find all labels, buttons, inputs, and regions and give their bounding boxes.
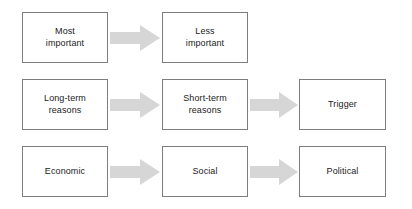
flow-diagram: Most important Less important Long-term … [0,0,412,209]
node-trigger[interactable]: Trigger [299,79,386,130]
arrow-right-icon [250,92,298,118]
node-most-important[interactable]: Most important [22,12,108,63]
node-label: Long-term reasons [41,93,89,116]
node-label: Social [189,166,220,178]
diagram-row-2: Long-term reasons Short-term reasons Tri… [0,79,412,131]
node-label: Less important [183,26,227,49]
arrow-right-icon [250,159,298,185]
node-label: Political [324,166,362,178]
arrow-right-icon [110,25,160,51]
node-long-term-reasons[interactable]: Long-term reasons [22,79,108,130]
node-label: Economic [42,166,88,178]
arrow-right-icon [110,159,160,185]
diagram-row-3: Economic Social Political [0,146,412,198]
node-less-important[interactable]: Less important [162,12,248,63]
node-label: Short-term reasons [180,93,230,116]
node-short-term-reasons[interactable]: Short-term reasons [162,79,248,130]
arrow-right-icon [110,92,160,118]
node-economic[interactable]: Economic [22,146,108,197]
diagram-row-1: Most important Less important [0,12,412,64]
node-label: Trigger [325,99,360,111]
node-label: Most important [43,26,87,49]
node-social[interactable]: Social [162,146,248,197]
node-political[interactable]: Political [299,146,386,197]
